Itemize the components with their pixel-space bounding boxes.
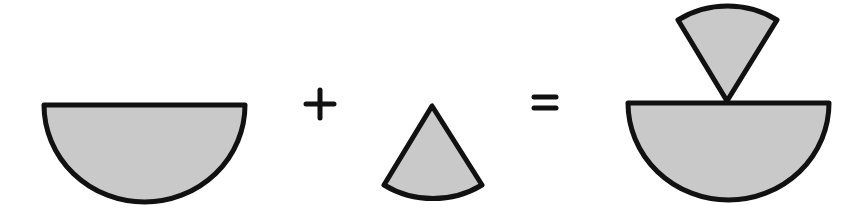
plus-operator [306,90,334,118]
inverted-sector-shape [678,6,777,101]
sector-shape [384,106,482,199]
equals-operator [534,97,556,108]
semicircle-shape [44,105,245,202]
shape-equation-diagram [0,0,868,215]
combined-shape [628,6,829,200]
semicircle-base-shape [628,103,829,200]
